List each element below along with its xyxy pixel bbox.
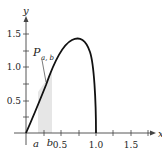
x-axis-label: x bbox=[158, 128, 162, 139]
y-tick-label: 1.5 bbox=[7, 29, 22, 39]
y-axis-arrow-icon bbox=[24, 16, 29, 22]
y-tick-label: 0.5 bbox=[7, 96, 22, 106]
point-label: P bbox=[32, 46, 41, 59]
x-axis-arrow-icon bbox=[150, 131, 156, 136]
x-tick-label: 1.0 bbox=[89, 140, 104, 150]
point-label-subscript: a, b bbox=[41, 54, 55, 62]
x-tick-label: 1.5 bbox=[124, 140, 139, 150]
figure: 0.5 1.0 1.5 0.5 1.0 1.5 x y P a, b a b bbox=[0, 0, 162, 155]
marker-a: a bbox=[33, 138, 39, 149]
shaded-region bbox=[38, 72, 52, 133]
y-tick-label: 1.0 bbox=[7, 62, 22, 72]
x-tick-label: 0.5 bbox=[53, 140, 68, 150]
marker-b: b bbox=[47, 137, 53, 148]
plot-svg: 0.5 1.0 1.5 0.5 1.0 1.5 x y P a, b a b bbox=[0, 0, 162, 155]
label-pointer bbox=[42, 60, 46, 82]
y-axis-label: y bbox=[22, 5, 29, 16]
